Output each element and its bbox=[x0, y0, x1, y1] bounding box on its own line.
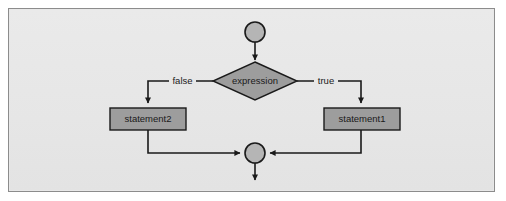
merge-node bbox=[245, 143, 265, 163]
start-node bbox=[245, 22, 265, 42]
statement1-node-label: statement1 bbox=[339, 113, 386, 124]
decision-node-label: expression bbox=[232, 75, 278, 86]
edge-statement2-to-merge bbox=[148, 130, 240, 153]
edge-label-true: true bbox=[318, 75, 334, 86]
screenshot-root: expression statement2 statement1 false t… bbox=[0, 0, 506, 201]
statement2-node-label: statement2 bbox=[125, 113, 172, 124]
flowchart-canvas: expression statement2 statement1 false t… bbox=[0, 0, 506, 201]
edge-label-false: false bbox=[172, 75, 192, 86]
edge-statement1-to-merge bbox=[270, 130, 361, 153]
